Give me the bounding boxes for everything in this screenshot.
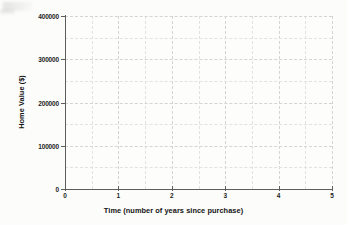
y-axis-tick <box>61 59 66 60</box>
y-axis-tick <box>61 16 66 17</box>
gridline-horizontal <box>65 38 332 39</box>
y-axis-tick <box>61 103 66 104</box>
x-axis-spine <box>64 189 333 190</box>
x-axis-tick <box>172 186 173 191</box>
x-axis-tick-label: 3 <box>223 192 227 199</box>
x-axis-tick-label: 2 <box>170 192 174 199</box>
x-axis-tick-label: 5 <box>330 192 334 199</box>
y-axis-tick-label: 400000 <box>38 13 59 20</box>
x-axis-title: Time (number of years since purchase) <box>0 206 347 215</box>
gridline-horizontal <box>65 103 332 104</box>
x-axis-tick <box>225 186 226 191</box>
y-axis-tick-label: 100000 <box>38 142 59 149</box>
x-axis-tick <box>65 186 66 191</box>
y-axis-tick-label: 300000 <box>38 56 59 63</box>
x-axis-tick-label: 1 <box>117 192 121 199</box>
x-axis-tick-label: 0 <box>63 192 67 199</box>
scan-artifact-secondary <box>0 9 14 14</box>
x-axis-tick-label: 4 <box>277 192 281 199</box>
gridline-horizontal <box>65 59 332 60</box>
y-axis-title: Home Value ($) <box>17 75 26 129</box>
gridline-horizontal <box>65 124 332 125</box>
gridline-horizontal <box>65 81 332 82</box>
chart-figure: 0100000200000300000400000012345 Time (nu… <box>0 0 347 225</box>
y-axis-tick-label: 200000 <box>38 99 59 106</box>
x-axis-tick <box>332 186 333 191</box>
y-axis-tick <box>61 146 66 147</box>
gridline-horizontal <box>65 16 332 17</box>
gridline-vertical <box>332 16 333 189</box>
y-axis-tick-label: 0 <box>56 186 59 193</box>
gridline-horizontal <box>65 146 332 147</box>
gridline-horizontal <box>65 167 332 168</box>
plot-area <box>65 16 332 189</box>
x-axis-tick <box>118 186 119 191</box>
x-axis-tick <box>279 186 280 191</box>
